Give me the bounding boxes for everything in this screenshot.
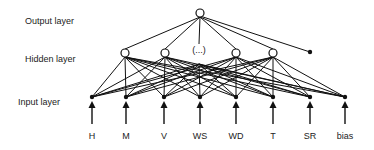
hidden-bias-node <box>308 50 312 54</box>
input-label-sr: SR <box>304 131 317 141</box>
input-node <box>162 95 166 99</box>
input-node <box>234 95 238 99</box>
input-layer-label: Input layer <box>18 97 60 107</box>
arrow-head-icon <box>270 101 277 108</box>
connection-line <box>199 17 200 44</box>
input-node <box>90 95 94 99</box>
input-node <box>124 95 128 99</box>
connection-line <box>125 17 200 49</box>
connection-line <box>200 16 310 52</box>
input-node <box>343 95 347 99</box>
input-label-m: M <box>122 131 130 141</box>
hidden-node <box>121 49 129 57</box>
input-label-t: T <box>270 131 276 141</box>
arrow-head-icon <box>307 101 314 108</box>
hidden-layer-label: Hidden layer <box>25 54 76 64</box>
input-label-wd: WD <box>229 131 244 141</box>
connection-line <box>125 57 310 97</box>
input-label-bias: bias <box>337 131 354 141</box>
input-node <box>271 95 275 99</box>
input-label-ws: WS <box>193 131 208 141</box>
output-layer-label: Output layer <box>25 16 74 26</box>
hidden-node <box>161 49 169 57</box>
neural-network-diagram: Output layer Hidden layer Input layer (.… <box>0 0 374 150</box>
arrow-head-icon <box>89 101 96 108</box>
output-node <box>196 9 204 17</box>
hidden-output-connections <box>125 16 310 52</box>
arrow-head-icon <box>197 101 204 108</box>
input-hidden-connections <box>92 57 345 97</box>
input-arrows <box>89 101 349 124</box>
input-node <box>308 95 312 99</box>
connection-line <box>199 64 200 97</box>
input-label-v: V <box>161 131 167 141</box>
connection-line <box>125 57 200 97</box>
connection-line <box>200 17 273 49</box>
arrow-head-icon <box>123 101 130 108</box>
hidden-node <box>232 49 240 57</box>
input-node <box>198 95 202 99</box>
input-label-h: H <box>89 131 96 141</box>
arrow-head-icon <box>342 101 349 108</box>
connection-line <box>125 57 126 97</box>
arrow-head-icon <box>233 101 240 108</box>
hidden-ellipsis: (...) <box>192 45 206 55</box>
connection-line <box>164 57 165 97</box>
arrow-head-icon <box>161 101 168 108</box>
hidden-node <box>269 49 277 57</box>
